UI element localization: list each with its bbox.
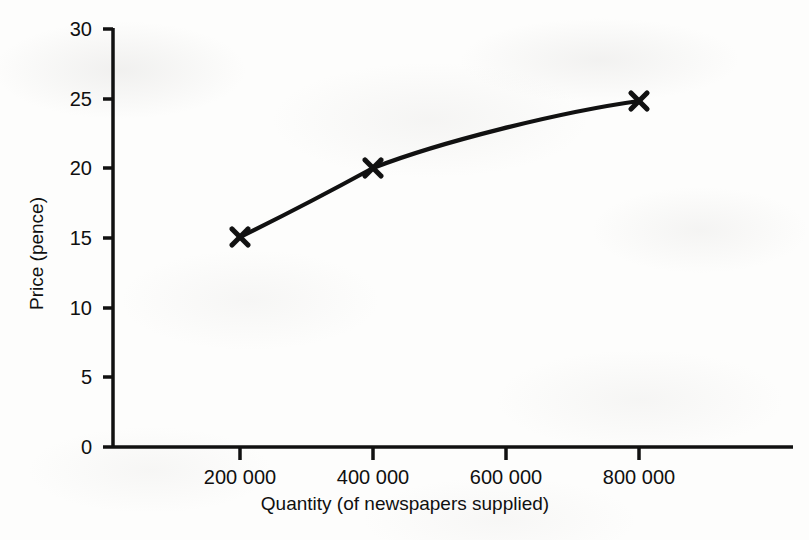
y-tick-label-0: 0 (40, 436, 92, 459)
y-tick-label-25: 25 (40, 88, 92, 111)
supply-curve-line (240, 101, 639, 237)
supply-curve-plot (0, 0, 809, 540)
y-tick-label-20: 20 (40, 157, 92, 180)
x-axis-title: Quantity (of newspapers supplied) (180, 493, 630, 515)
y-axis-title: Price (pence) (26, 197, 48, 310)
data-point-marker (232, 229, 248, 245)
y-tick-label-30: 30 (40, 18, 92, 41)
x-tick-label-800000: 800 000 (574, 466, 704, 489)
x-tick-label-200000: 200 000 (175, 466, 305, 489)
y-tick-label-5: 5 (40, 366, 92, 389)
x-tick-label-600000: 600 000 (441, 466, 571, 489)
chart-page: 0 5 10 15 20 25 30 200 000 400 000 600 0… (0, 0, 809, 540)
x-tick-label-400000: 400 000 (308, 466, 438, 489)
